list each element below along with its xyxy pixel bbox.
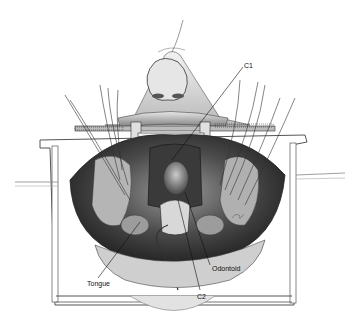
label-odontoid: Odontoid <box>212 265 240 272</box>
surgical-illustration <box>0 0 352 315</box>
label-c1: C1 <box>244 62 253 69</box>
label-c2: C2 <box>197 293 206 300</box>
label-tongue: Tongue <box>87 280 110 287</box>
